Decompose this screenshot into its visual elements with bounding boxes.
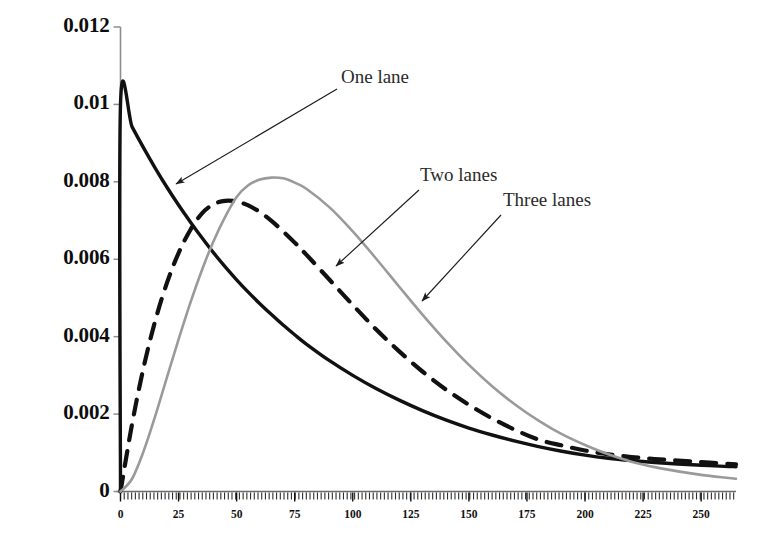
y-axis-tick-label: 0 — [99, 478, 109, 503]
x-axis-tick-label: 175 — [497, 508, 557, 520]
y-axis-tick-label: 0.006 — [63, 245, 109, 270]
x-axis-tick-label: 250 — [671, 508, 731, 520]
x-axis-tick-label: 150 — [439, 508, 499, 520]
series-label-one-lane: One lane — [341, 66, 409, 88]
x-axis-tick-label: 75 — [265, 508, 325, 520]
x-axis-tick-label: 125 — [381, 508, 441, 520]
annotation-arrow-three-lanes — [422, 215, 501, 301]
y-axis-tick-label: 0.004 — [63, 323, 109, 348]
x-axis-tick-label: 25 — [149, 508, 209, 520]
x-axis-tick-label: 200 — [555, 508, 615, 520]
series-line-one-lane — [120, 81, 736, 491]
x-axis-tick-label: 0 — [91, 508, 151, 520]
annotation-arrow-one-lane — [176, 89, 337, 184]
y-axis-tick-label: 0.008 — [63, 168, 109, 193]
annotation-arrows — [176, 89, 501, 301]
chart-figure: 00.0020.0040.0060.0080.010.012 025507510… — [0, 0, 757, 540]
y-axis-tick-label: 0.002 — [63, 400, 109, 425]
x-axis-minor-ticks — [121, 493, 734, 502]
series-label-two-lanes: Two lanes — [420, 164, 497, 186]
x-axis-tick-label: 225 — [613, 508, 673, 520]
x-axis-tick-label: 50 — [207, 508, 267, 520]
series-line-three-lanes — [121, 177, 737, 491]
series-label-three-lanes: Three lanes — [503, 189, 591, 211]
x-axis-tick-label: 100 — [323, 508, 383, 520]
y-axis-tick-label: 0.01 — [74, 90, 110, 115]
y-axis-tick-label: 0.012 — [63, 13, 109, 38]
chart-series-group — [120, 81, 736, 491]
